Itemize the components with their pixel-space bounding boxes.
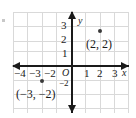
data-point-label-neg3-neg2: (−3, −2) <box>16 88 56 100</box>
x-tick-neg3: −3 <box>29 68 41 79</box>
x-tick-pos1: 1 <box>84 68 90 79</box>
x-tick-neg2: −2 <box>44 68 56 79</box>
x-axis-label: x <box>122 68 126 78</box>
data-point-label-2-2: (2, 2) <box>86 38 112 50</box>
x-tick-pos3: 3 <box>112 68 118 79</box>
gridline-vertical <box>56 12 57 113</box>
data-point-neg3-neg2 <box>40 79 44 83</box>
y-axis-label: y <box>78 16 82 26</box>
data-point-2-2 <box>98 29 102 33</box>
y-axis <box>71 12 73 113</box>
y-tick-pos3: 3 <box>61 20 67 31</box>
gridline-vertical <box>85 12 86 113</box>
origin-label: O <box>62 68 69 78</box>
x-tick-neg4: −4 <box>14 68 26 79</box>
y-tick-pos2: 2 <box>61 34 67 45</box>
y-tick-neg2: −2 <box>59 78 69 89</box>
gridline-vertical <box>114 12 115 113</box>
y-tick-pos1: 1 <box>62 48 68 59</box>
x-tick-pos2: 2 <box>97 68 103 79</box>
y-axis-arrow-down-icon <box>68 105 76 113</box>
crop-edge-artifact <box>2 19 5 22</box>
y-axis-arrow-up-icon <box>68 11 76 19</box>
graph-figure: y x O −4 −3 −2 1 2 3 3 2 1 −2 (2, 2) (−3… <box>0 0 136 118</box>
gridline-vertical <box>100 12 101 113</box>
